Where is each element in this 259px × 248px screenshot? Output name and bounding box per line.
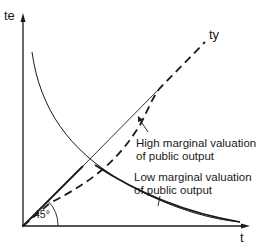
x-axis-label: t [240, 230, 244, 245]
high-valuation-pointer [140, 120, 148, 132]
y-axis-label: te [4, 8, 15, 23]
low-valuation-annotation: Low marginal valuation of public output [134, 171, 252, 197]
y-axis-arrow-icon [21, 13, 26, 22]
ty-label: ty [209, 27, 219, 42]
low-valuation-line2: of public output [134, 184, 252, 197]
low-valuation-line1: Low marginal valuation [134, 171, 252, 184]
high-valuation-line2: of public output [136, 150, 256, 163]
forty-five-line-thick [23, 166, 83, 226]
high-valuation-line1: High marginal valuation [136, 137, 256, 150]
diagram-canvas: te t ty 45° High marginal valuation of p… [0, 0, 259, 248]
low-valuation-pointer [158, 196, 160, 206]
angle-label: 45° [34, 208, 50, 220]
x-axis-arrow-icon [241, 224, 250, 229]
high-valuation-annotation: High marginal valuation of public output [136, 137, 256, 163]
